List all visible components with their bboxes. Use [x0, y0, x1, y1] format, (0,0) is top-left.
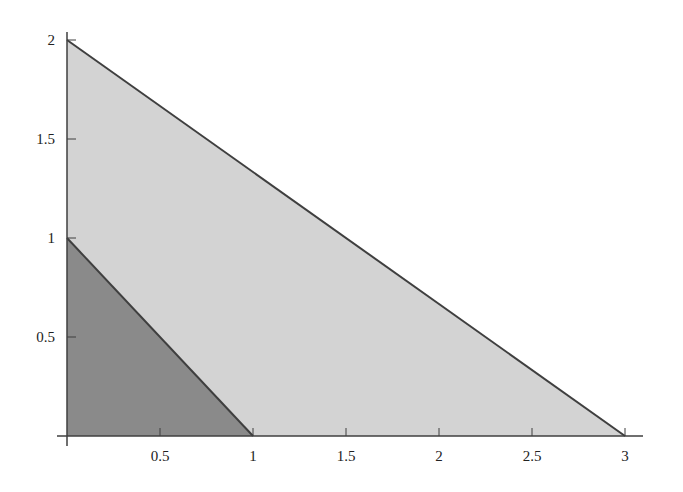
- y-tick-label: 1.5: [36, 131, 55, 147]
- x-tick-label: 0.5: [151, 448, 170, 464]
- x-tick-label: 1: [249, 448, 257, 464]
- y-tick-label: 2: [48, 32, 56, 48]
- x-tick-label: 1.5: [337, 448, 356, 464]
- plot-regions: [67, 40, 625, 436]
- x-tick-label: 2.5: [523, 448, 542, 464]
- chart-canvas: 0.511.522.53 0.511.52: [0, 0, 683, 492]
- y-tick-label: 1: [48, 230, 56, 246]
- x-tick-label: 2: [435, 448, 443, 464]
- x-tick-label: 3: [621, 448, 629, 464]
- y-tick-label: 0.5: [36, 329, 55, 345]
